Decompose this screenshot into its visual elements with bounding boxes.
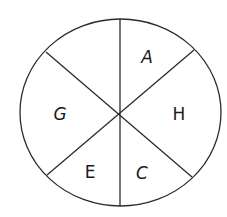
sector-label-bottom-left: E: [85, 162, 96, 182]
sector-label-bottom-right: C: [136, 163, 148, 183]
divided-circle-diagram: A H C E G: [0, 0, 227, 217]
sector-label-top-right: A: [140, 47, 153, 67]
sector-label-left: G: [53, 104, 66, 124]
sector-label-right: H: [173, 104, 186, 124]
